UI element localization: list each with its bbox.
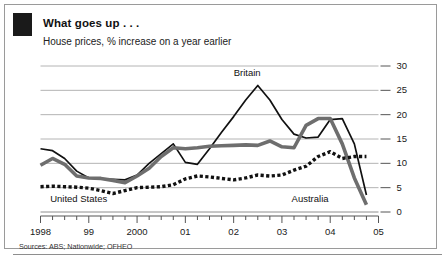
- series-annotation-label: Britain: [234, 67, 261, 78]
- y-axis-tick-label: 0: [397, 206, 402, 217]
- x-axis-tick-label: 2000: [126, 226, 147, 237]
- y-axis-tick-label: 30: [397, 60, 408, 71]
- x-axis-tick-label: 05: [373, 226, 384, 237]
- chart-subtitle: House prices, % increase on a year earli…: [43, 36, 231, 47]
- x-axis-tick-label: 04: [325, 226, 336, 237]
- x-axis-tick-label: 01: [180, 226, 191, 237]
- y-axis-tick-label: 10: [397, 157, 408, 168]
- x-axis-tick-label: 99: [83, 226, 94, 237]
- x-axis-tick-label: 02: [228, 226, 239, 237]
- y-axis-tick-label: 25: [397, 84, 408, 95]
- y-axis-tick-label: 20: [397, 109, 408, 120]
- y-axis-tick-label: 5: [397, 182, 402, 193]
- sources-note: Sources: ABS; Nationwide; OFHEO: [19, 242, 132, 251]
- sources-divider: [13, 254, 442, 255]
- accent-square-decoration: [13, 13, 32, 36]
- page-title: What goes up . . .: [43, 17, 139, 29]
- y-axis-tick-label: 15: [397, 133, 408, 144]
- series-annotation-label: United States: [50, 193, 107, 204]
- x-axis-tick-label: 03: [277, 226, 288, 237]
- series-annotation-label: Australia: [292, 193, 329, 204]
- chart-card: What goes up . . . House prices, % incre…: [4, 4, 437, 249]
- x-axis-tick-label: 1998: [30, 226, 51, 237]
